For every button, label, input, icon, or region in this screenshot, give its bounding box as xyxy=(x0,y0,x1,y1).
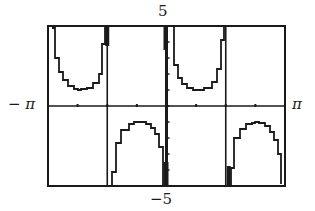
function-curve xyxy=(228,122,281,211)
y-max-label: 5 xyxy=(158,4,168,19)
function-curve xyxy=(170,0,224,90)
x-max-label: π xyxy=(292,97,302,112)
plot-area xyxy=(0,0,315,211)
asymptote-fill xyxy=(164,26,168,50)
asymptote-fill xyxy=(164,162,169,186)
function-curve xyxy=(52,0,105,90)
x-min-label: − π xyxy=(8,97,35,112)
y-min-label: −5 xyxy=(150,192,172,207)
